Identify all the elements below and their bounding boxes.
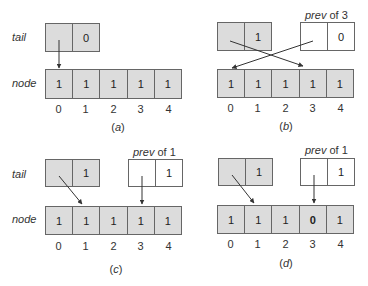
node-cell-0: 1 xyxy=(46,70,72,98)
node-cell-0: 1 xyxy=(46,207,72,234)
index-label-3: 3 xyxy=(127,103,154,115)
node-cell-2: 1 xyxy=(271,206,298,233)
index-label-2: 2 xyxy=(100,103,127,115)
node-cell-1: 1 xyxy=(244,206,271,233)
of-word: of xyxy=(326,144,341,156)
tail-pointer-cell xyxy=(46,24,72,51)
caption-b: (b) xyxy=(271,120,301,132)
index-label-1: 1 xyxy=(244,238,271,250)
prev-label: prev of 1 xyxy=(305,144,348,156)
index-label-3: 3 xyxy=(127,240,154,252)
node-cell-0: 1 xyxy=(218,70,244,97)
tail-pointer-cell xyxy=(219,159,245,185)
node-label: node xyxy=(12,77,36,89)
index-label-1: 1 xyxy=(244,102,271,114)
node-cell-4: 1 xyxy=(154,70,181,98)
node-cell-1: 1 xyxy=(72,70,99,98)
prev-value-cell: 0 xyxy=(327,23,354,50)
node-cell-4: 1 xyxy=(326,206,353,233)
tail-box: 0 xyxy=(45,23,100,52)
index-label-4: 4 xyxy=(155,240,182,252)
node-cell-2: 1 xyxy=(99,70,126,98)
prev-box: 1 xyxy=(300,158,355,186)
index-label-2: 2 xyxy=(100,240,127,252)
caption-letter: c xyxy=(113,263,119,275)
node-label: node xyxy=(12,213,36,225)
node-array: 1 1 1 0 1 xyxy=(217,205,354,234)
node-cell-1: 1 xyxy=(244,70,271,97)
node-cell-4: 1 xyxy=(154,207,181,234)
prev-word: prev xyxy=(133,146,154,158)
index-label-1: 1 xyxy=(72,103,99,115)
caption-letter: a xyxy=(115,121,121,133)
prev-pointer-cell xyxy=(129,160,155,186)
prev-of-value: 1 xyxy=(170,146,176,158)
index-label-1: 1 xyxy=(72,240,99,252)
node-cell-2: 1 xyxy=(271,70,298,97)
prev-of-value: 3 xyxy=(342,9,348,21)
index-label-3: 3 xyxy=(299,238,326,250)
caption-c: (c) xyxy=(101,263,131,275)
caption-a: (a) xyxy=(103,121,133,133)
index-label-4: 4 xyxy=(155,103,182,115)
prev-label: prev of 1 xyxy=(133,146,176,158)
prev-of-value: 1 xyxy=(342,144,348,156)
index-label-0: 0 xyxy=(45,103,72,115)
index-label-3: 3 xyxy=(299,102,326,114)
node-array: 1 1 1 1 1 xyxy=(45,69,182,99)
of-word: of xyxy=(326,9,341,21)
node-array: 1 1 1 1 1 xyxy=(45,206,182,235)
prev-value-cell: 1 xyxy=(327,159,354,185)
prev-pointer-cell xyxy=(301,23,327,50)
tail-box: 1 xyxy=(218,158,273,186)
node-cell-3: 1 xyxy=(127,207,154,234)
prev-pointer-cell xyxy=(301,159,327,185)
index-label-0: 0 xyxy=(217,102,244,114)
tail-pointer-cell xyxy=(46,160,72,186)
of-word: of xyxy=(154,146,169,158)
node-array: 1 1 1 1 1 xyxy=(217,69,354,98)
caption-d: (d) xyxy=(271,257,301,269)
index-label-2: 2 xyxy=(272,102,299,114)
node-cell-3-updated: 0 xyxy=(299,206,326,233)
node-cell-1: 1 xyxy=(72,207,99,234)
caption-letter: d xyxy=(283,257,289,269)
tail-label: tail xyxy=(12,31,26,43)
index-label-0: 0 xyxy=(45,240,72,252)
tail-value-cell: 1 xyxy=(245,159,272,185)
prev-box: 1 xyxy=(128,159,183,187)
tail-value-cell: 1 xyxy=(244,23,271,50)
tail-label: tail xyxy=(12,168,26,180)
node-cell-3: 1 xyxy=(127,70,154,98)
prev-word: prev xyxy=(305,9,326,21)
prev-word: prev xyxy=(305,144,326,156)
caption-letter: b xyxy=(283,120,289,132)
index-label-4: 4 xyxy=(327,238,354,250)
node-cell-0: 1 xyxy=(218,206,244,233)
prev-label: prev of 3 xyxy=(305,9,348,21)
tail-box: 1 xyxy=(217,22,272,51)
tail-value-cell: 0 xyxy=(72,24,99,51)
tail-box: 1 xyxy=(45,159,100,187)
node-cell-2: 1 xyxy=(99,207,126,234)
node-cell-3: 1 xyxy=(299,70,326,97)
prev-value-cell: 1 xyxy=(155,160,182,186)
tail-pointer-cell xyxy=(218,23,244,50)
index-label-0: 0 xyxy=(217,238,244,250)
index-label-4: 4 xyxy=(327,102,354,114)
index-label-2: 2 xyxy=(272,238,299,250)
node-cell-4: 1 xyxy=(326,70,353,97)
tail-value-cell: 1 xyxy=(72,160,99,186)
prev-box: 0 xyxy=(300,22,355,51)
